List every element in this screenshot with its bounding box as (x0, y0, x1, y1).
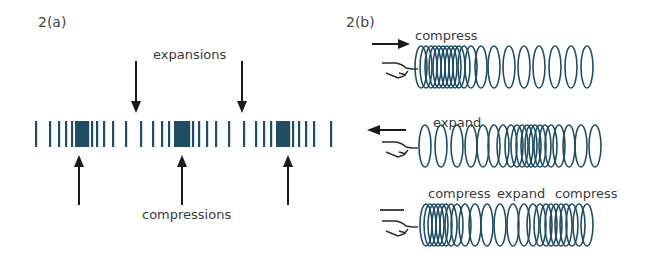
coil (565, 46, 577, 88)
coil (575, 125, 587, 167)
coil (527, 204, 539, 246)
coil (549, 46, 561, 88)
spring-row-3 (420, 204, 593, 246)
coil (451, 125, 463, 167)
coil (435, 125, 447, 167)
coil (481, 204, 493, 246)
hand-icon (382, 63, 418, 78)
coil (494, 204, 506, 246)
coil (533, 46, 545, 88)
coil (518, 46, 530, 88)
hand-icon (382, 142, 418, 157)
coil (589, 125, 601, 167)
coil (488, 46, 500, 88)
coil (581, 204, 593, 246)
coil (503, 46, 515, 88)
coil (419, 125, 431, 167)
coil (581, 46, 593, 88)
slinky-spring-diagram (0, 0, 645, 273)
arrow-right-icon (398, 39, 410, 49)
hand-icon (382, 221, 418, 236)
spring-row-2 (419, 125, 601, 167)
spring-row-1 (415, 46, 593, 88)
arrow-left-icon (367, 125, 380, 135)
coil (465, 125, 477, 167)
